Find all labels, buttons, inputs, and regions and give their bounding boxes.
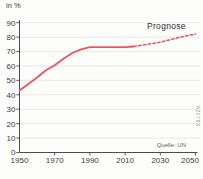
y-tick-label: 10	[7, 134, 16, 143]
y-tick-label: 60	[7, 62, 16, 71]
series-line-historical	[20, 47, 134, 91]
y-tick-label: 80	[7, 33, 16, 42]
chart-figure: 0102030405060708090195019701990201020302…	[0, 0, 203, 179]
x-tick-label: 2050	[181, 156, 199, 165]
forecast-annotation: Prognose	[147, 21, 186, 31]
x-tick-label: 1990	[81, 156, 99, 165]
series-line-prognose	[134, 34, 196, 46]
x-tick-label: 1950	[11, 156, 29, 165]
y-tick-label: 70	[7, 47, 16, 56]
x-tick-label: 2030	[151, 156, 169, 165]
source-label: Quelle: UN	[157, 142, 186, 148]
x-tick-label: 1970	[46, 156, 64, 165]
x-tick-label: 2010	[116, 156, 134, 165]
y-tick-label: 20	[7, 120, 16, 129]
figure-code: 62078X	[195, 106, 201, 127]
y-tick-label: 40	[7, 91, 16, 100]
y-tick-label: 30	[7, 105, 16, 114]
y-axis-unit-label: in %	[6, 1, 21, 10]
y-tick-label: 50	[7, 76, 16, 85]
y-tick-label: 90	[7, 19, 16, 28]
